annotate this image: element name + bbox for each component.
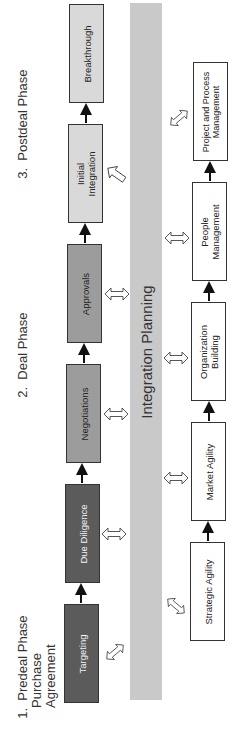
box-organization-building-label: Organization Building: [198, 325, 220, 379]
box-targeting: Targeting: [64, 604, 99, 703]
box-initial-integration: Initial Integration: [68, 124, 103, 223]
phase-1-number: 1.: [15, 708, 30, 719]
box-breakthrough-label: Breakthrough: [81, 25, 92, 82]
integration-planning-label: Integration Planning: [138, 285, 155, 418]
phase-1-line2: Purchase: [29, 653, 44, 708]
box-due-diligence: Due Diligence: [65, 484, 100, 583]
box-breakthrough: Breakthrough: [69, 4, 104, 103]
box-people-management-label: People Management: [199, 204, 221, 259]
box-approvals-label: Approvals: [79, 272, 90, 314]
box-due-diligence-label: Due Diligence: [77, 504, 88, 563]
integration-planning-band: Integration Planning: [130, 3, 162, 700]
box-targeting-label: Targeting: [76, 634, 87, 673]
box-project-process-management-label: Project and Process Management: [201, 71, 221, 152]
phase-1-line3: Agreement: [43, 644, 58, 708]
box-strategic-agility-label: Strategic Agility: [202, 559, 213, 624]
box-strategic-agility: Strategic Agility: [190, 542, 225, 641]
top-band-arrows: [102, 163, 129, 664]
phase-3-title: Postdeal Phase: [15, 70, 30, 161]
box-market-agility: Market Agility: [191, 422, 226, 521]
phase-2-number: 2.: [15, 387, 30, 398]
phase-3-label: 3. Postdeal Phase: [2, 70, 30, 186]
box-organization-building: Organization Building: [191, 302, 226, 401]
phase-2-label: 2. Deal Phase: [2, 312, 30, 405]
box-initial-integration-label: Initial Integration: [75, 151, 97, 196]
box-approvals: Approvals: [67, 244, 102, 343]
box-negotiations-label: Negotiations: [78, 387, 89, 440]
phase-1-title: Predeal Phase: [15, 615, 30, 700]
box-negotiations: Negotiations: [66, 364, 101, 463]
box-market-agility-label: Market Agility: [203, 443, 214, 500]
phase-3-number: 3.: [15, 168, 30, 179]
box-people-management: People Management: [192, 182, 227, 281]
phase-2-title: Deal Phase: [15, 312, 30, 379]
box-project-process-management: Project and Process Management: [193, 62, 228, 161]
phase-1-label: 1. Predeal Phase Purchase Agreement: [2, 615, 58, 726]
band-bottom-arrows: [164, 107, 191, 617]
